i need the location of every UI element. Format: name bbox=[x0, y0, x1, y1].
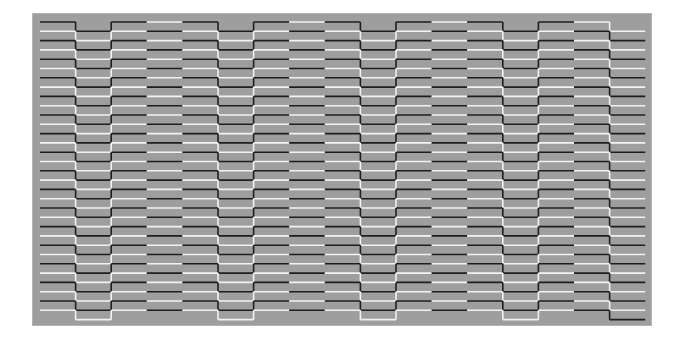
square-wave-pattern bbox=[32, 13, 652, 326]
illusion-panel bbox=[32, 13, 652, 326]
